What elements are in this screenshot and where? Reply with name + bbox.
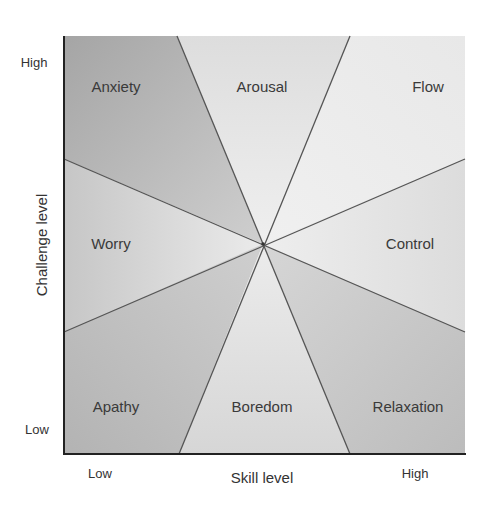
x-axis-low-label: Low [88,466,112,481]
y-axis-high-label: High [21,55,48,70]
region-label-relaxation: Relaxation [373,398,444,415]
region-label-worry: Worry [91,235,131,252]
flow-diagram: Anxiety Arousal Flow Worry Control Apath… [0,0,491,511]
x-axis-title: Skill level [231,469,294,486]
region-label-control: Control [386,235,434,252]
center-point [261,242,265,246]
x-axis-high-label: High [402,466,429,481]
y-axis-title: Challenge level [33,194,50,297]
y-axis-low-label: Low [25,422,49,437]
region-label-flow: Flow [412,78,444,95]
region-label-boredom: Boredom [232,398,293,415]
region-label-anxiety: Anxiety [91,78,141,95]
region-label-arousal: Arousal [237,78,288,95]
region-label-apathy: Apathy [93,398,140,415]
